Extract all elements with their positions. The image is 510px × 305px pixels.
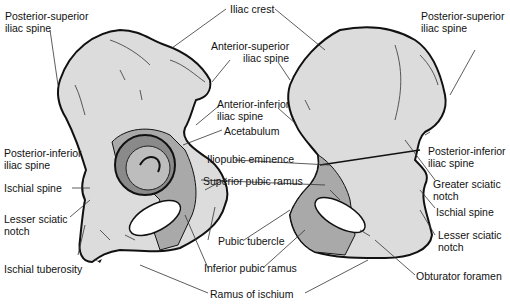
label-iliac-crest: Iliac crest bbox=[230, 3, 274, 15]
label-left-posterior-superior-iliac-spine: Posterior-superior iliac spine bbox=[5, 10, 88, 34]
label-left-posterior-inferior-iliac-spine: Posterior-inferior iliac spine bbox=[4, 147, 82, 171]
label-superior-pubic-ramus: Superior pubic ramus bbox=[203, 175, 303, 187]
label-obturator-foramen: Obturator foramen bbox=[416, 270, 502, 282]
label-left-lesser-sciatic-notch: Lesser sciatic notch bbox=[4, 213, 68, 237]
label-iliopubic-eminence: Iliopubic eminence bbox=[207, 153, 294, 165]
label-pubic-tubercle: Pubic tubercle bbox=[218, 235, 285, 247]
right-hip-bone bbox=[288, 27, 446, 258]
label-inferior-pubic-ramus: Inferior pubic ramus bbox=[204, 262, 297, 274]
left-hip-bone bbox=[58, 30, 227, 263]
label-ischial-tuberosity: Ischial tuberosity bbox=[4, 263, 82, 275]
label-right-ischial-spine: Ischial spine bbox=[436, 206, 494, 218]
label-ramus-of-ischium: Ramus of ischium bbox=[210, 288, 293, 300]
label-anterior-inferior-iliac-spine: Anterior-inferior iliac spine bbox=[217, 98, 289, 122]
label-acetabulum: Acetabulum bbox=[224, 125, 279, 137]
label-anterior-superior-iliac-spine: Anterior-superior iliac spine bbox=[211, 40, 289, 64]
label-greater-sciatic-notch: Greater sciatic notch bbox=[433, 178, 501, 202]
label-left-ischial-spine: Ischial spine bbox=[4, 182, 62, 194]
label-right-lesser-sciatic-notch: Lesser sciatic notch bbox=[438, 229, 502, 253]
label-right-posterior-inferior-iliac-spine: Posterior-inferior iliac spine bbox=[428, 145, 506, 169]
label-right-posterior-superior-iliac-spine: Posterior-superior iliac spine bbox=[421, 10, 504, 34]
